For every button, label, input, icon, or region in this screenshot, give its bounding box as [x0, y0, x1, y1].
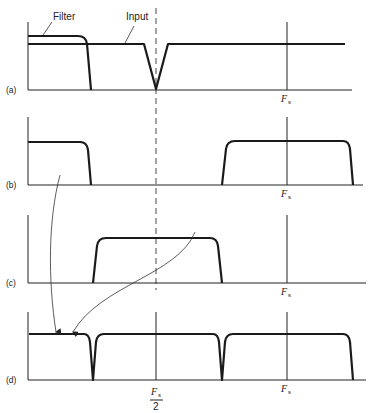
input-leader-line — [125, 26, 134, 43]
shifted-spectrum — [93, 238, 222, 283]
baseband-spectrum — [28, 142, 91, 185]
panel-b-fs-subscript: s — [288, 194, 291, 200]
shifted-to-d-arrow — [73, 232, 195, 332]
panel-a-fs-subscript: s — [288, 99, 291, 105]
filter-label: Filter — [53, 11, 76, 22]
baseband-to-d-arrow — [50, 175, 60, 332]
panel-c: (c) F s — [6, 215, 366, 298]
panel-c-fs-label: F — [280, 286, 288, 297]
panel-d: (d) F s F s 2 — [6, 312, 366, 412]
half-fs-denominator: 2 — [153, 401, 159, 412]
filter-leader-line — [43, 22, 52, 35]
panel-b: (b) F s — [6, 117, 363, 200]
half-fs-numerator: F — [150, 386, 158, 397]
panel-a-fs-label: F — [280, 93, 288, 104]
input-spectrum-curve — [28, 44, 345, 89]
panel-a: Filter Input (a) F s — [6, 11, 352, 105]
combined-spectrum — [29, 334, 353, 380]
input-label: Input — [126, 11, 148, 22]
panel-b-fs-label: F — [280, 188, 288, 199]
panel-c-label: (c) — [6, 278, 16, 288]
sampling-spectrum-diagram: Filter Input (a) F s (b) F s (c) F s (d)… — [0, 0, 375, 413]
panel-d-fs-label: F — [280, 383, 288, 394]
panel-d-fs-subscript: s — [288, 389, 291, 395]
half-fs-numerator-subscript: s — [158, 392, 161, 398]
panel-c-fs-subscript: s — [288, 292, 291, 298]
panel-d-label: (d) — [6, 375, 17, 385]
panel-a-label: (a) — [6, 85, 17, 95]
panel-b-label: (b) — [6, 180, 17, 190]
